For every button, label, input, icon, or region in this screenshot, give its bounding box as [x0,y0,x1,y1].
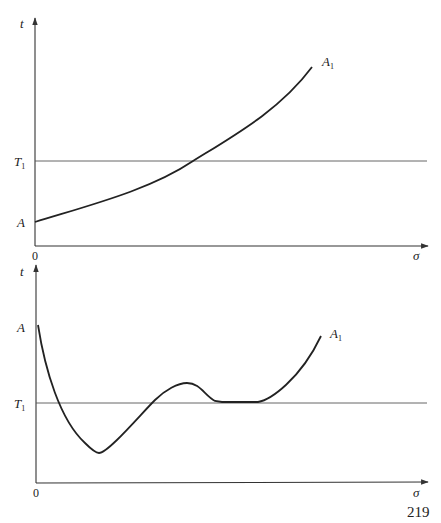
bottom-origin-label: 0 [33,486,39,500]
top-end-label: A1 [321,54,334,71]
bottom-x-axis-label: σ [413,485,420,500]
top-plot: t T1 A 0 σ A1 [14,16,428,263]
bottom-y-axis-label: t [20,264,24,279]
bottom-end-label: A1 [329,326,342,343]
top-y-axis-label: t [20,16,24,31]
figure: t T1 A 0 σ A1 t A T1 0 σ A1 219 [0,0,441,523]
top-curve [35,67,312,222]
top-threshold-label: T1 [14,154,25,171]
top-start-label: A [16,215,25,230]
bottom-curve [38,325,321,453]
page-number: 219 [407,504,430,520]
top-x-axis-label: σ [413,248,420,263]
bottom-threshold-label: T1 [14,396,25,413]
bottom-plot: t A T1 0 σ A1 [14,264,428,500]
top-origin-label: 0 [32,249,38,263]
bottom-x-axis [36,482,428,483]
bottom-start-label: A [16,320,25,335]
